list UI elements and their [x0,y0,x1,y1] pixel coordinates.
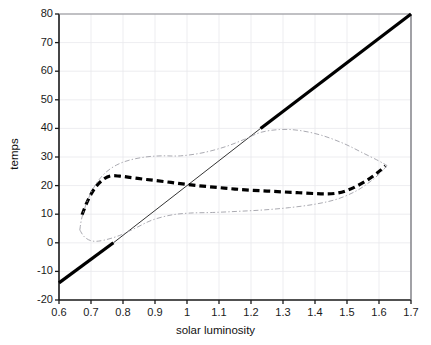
y-tick-label: -10 [13,264,53,276]
series-segment-thick [59,243,113,283]
y-tick-label: 0 [13,236,53,248]
y-tick-label: -20 [13,293,53,305]
chart-figure: -20-10010203040506070800.60.70.80.911.11… [0,0,431,345]
gridlines [59,14,411,300]
y-tick-label: 80 [13,7,53,19]
axis-ticks [55,14,411,304]
series-mean-temperature-branch-heavy-dashed- [82,166,385,215]
y-tick-label: 70 [13,36,53,48]
series-path [82,166,385,215]
plot-canvas [0,0,431,345]
x-tick-label: 1.7 [391,306,431,318]
series-envelope-upper-light-dash-dot- [80,129,387,230]
y-tick-label: 10 [13,207,53,219]
y-tick-label: 60 [13,64,53,76]
series-path [80,129,387,230]
y-tick-label: 50 [13,93,53,105]
x-axis-label: solar luminosity [0,324,431,336]
y-axis-label: temps [8,124,20,184]
